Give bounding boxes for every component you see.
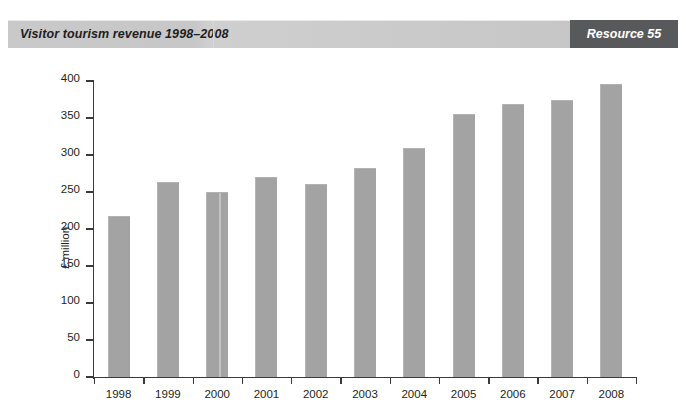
y-axis-tick: 400 xyxy=(86,80,93,81)
x-axis-tick-label: 2004 xyxy=(401,388,427,400)
x-axis-line xyxy=(93,377,636,378)
bar-2004 xyxy=(403,148,425,377)
x-axis-tick xyxy=(193,377,194,384)
x-axis-tick-label: 2006 xyxy=(500,388,526,400)
x-axis-tick-label: 2002 xyxy=(303,388,329,400)
y-axis-tick-label: 150 xyxy=(61,257,80,269)
y-axis-tick-label: 50 xyxy=(67,331,80,343)
x-axis-tick xyxy=(143,377,144,384)
y-axis-tick: 200 xyxy=(86,228,93,229)
x-axis-tick-label: 1998 xyxy=(106,388,132,400)
x-axis-tick xyxy=(587,377,588,384)
x-axis-tick-label: 2003 xyxy=(352,388,378,400)
x-axis-tick-label: 2001 xyxy=(254,388,280,400)
x-axis-tick xyxy=(636,377,637,384)
y-axis-tick-label: 200 xyxy=(61,220,80,232)
x-axis-tick xyxy=(340,377,341,384)
x-axis-tick-label: 2008 xyxy=(599,388,625,400)
y-axis-tick-label: 100 xyxy=(61,294,80,306)
bar-2007 xyxy=(551,100,573,377)
header-band: Visitor tourism revenue 1998–2008 Resour… xyxy=(8,20,678,48)
bar-2008 xyxy=(600,84,622,377)
page-title: Visitor tourism revenue 1998–2008 xyxy=(20,20,229,48)
y-axis-tick: 50 xyxy=(86,339,93,340)
y-axis-tick: 100 xyxy=(86,302,93,303)
y-axis-tick: 0 xyxy=(86,376,93,377)
y-axis-tick: 150 xyxy=(86,265,93,266)
bar-1998 xyxy=(108,216,130,377)
x-axis-tick xyxy=(439,377,440,384)
x-axis-tick xyxy=(242,377,243,384)
x-axis-tick-label: 2007 xyxy=(549,388,575,400)
x-axis-tick-label: 1999 xyxy=(155,388,181,400)
bar-1999 xyxy=(157,182,179,377)
x-axis-tick-label: 2005 xyxy=(451,388,477,400)
y-axis-tick-label: 0 xyxy=(74,368,80,380)
y-axis-tick: 300 xyxy=(86,154,93,155)
resource-badge: Resource 55 xyxy=(570,20,678,48)
x-axis-tick-label: 2000 xyxy=(204,388,230,400)
bar-2005 xyxy=(453,114,475,377)
y-axis-tick: 250 xyxy=(86,191,93,192)
bar-2006 xyxy=(502,104,524,377)
y-axis-line xyxy=(93,80,94,379)
y-axis-tick-label: 400 xyxy=(61,72,80,84)
y-axis-tick-label: 250 xyxy=(61,183,80,195)
resource-badge-label: Resource 55 xyxy=(570,20,678,48)
bar-2000 xyxy=(206,192,228,377)
bar-2002 xyxy=(305,184,327,377)
y-axis-tick-label: 300 xyxy=(61,146,80,158)
y-axis-label: £ million xyxy=(59,203,71,293)
y-axis-tick-label: 350 xyxy=(61,109,80,121)
x-axis-tick xyxy=(94,377,95,384)
bar-2001 xyxy=(255,177,277,377)
bar-chart: £ million 050100150200250300350400 19981… xyxy=(0,56,686,406)
x-axis-tick xyxy=(390,377,391,384)
header-divider xyxy=(213,21,214,47)
x-axis-tick xyxy=(488,377,489,384)
x-axis-tick xyxy=(291,377,292,384)
y-axis-tick: 350 xyxy=(86,117,93,118)
bar-2003 xyxy=(354,168,376,377)
x-axis-tick xyxy=(537,377,538,384)
